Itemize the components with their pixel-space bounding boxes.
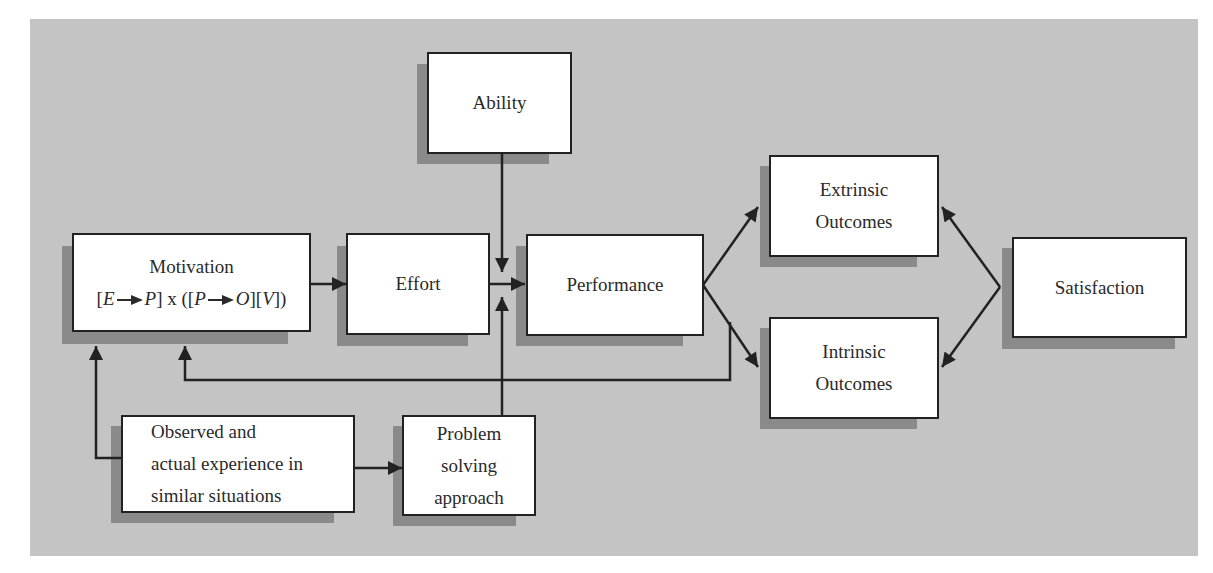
observed-line1: Observed and: [151, 416, 256, 448]
formula-expectancy: E: [103, 288, 115, 309]
arrow-right-icon: [117, 294, 143, 306]
formula-valence: V: [262, 288, 274, 309]
node-performance: Performance: [526, 234, 704, 336]
formula-performance: P: [194, 288, 206, 309]
problem-line3: approach: [434, 482, 504, 514]
node-motivation: Motivation [EP] x ([PO][V]): [72, 233, 311, 332]
arrow-satisfaction-extrinsic: [942, 207, 1000, 287]
intrinsic-line1: Intrinsic: [822, 336, 885, 368]
motivation-label: Motivation: [149, 251, 233, 283]
node-problem-solving: Problem solving approach: [402, 415, 536, 516]
problem-line1: Problem: [437, 418, 501, 450]
formula-part: ] x ([: [156, 288, 194, 309]
node-effort: Effort: [346, 233, 490, 335]
intrinsic-line2: Outcomes: [815, 368, 892, 400]
node-extrinsic-outcomes: Extrinsic Outcomes: [769, 155, 939, 257]
motivation-formula: [EP] x ([PO][V]): [97, 283, 287, 315]
formula-outcome: O: [236, 288, 250, 309]
effort-label: Effort: [395, 268, 440, 300]
arrow-satisfaction-intrinsic: [942, 287, 1000, 367]
observed-line2: actual experience in: [151, 448, 303, 480]
arrow-observed-motivation: [96, 346, 121, 458]
arrow-right-icon: [208, 294, 234, 306]
satisfaction-label: Satisfaction: [1055, 272, 1145, 304]
observed-line3: similar situations: [151, 480, 281, 512]
node-intrinsic-outcomes: Intrinsic Outcomes: [769, 317, 939, 419]
extrinsic-line2: Outcomes: [815, 206, 892, 238]
node-observed-experience: Observed and actual experience in simila…: [121, 415, 355, 513]
formula-performance: P: [145, 288, 157, 309]
node-satisfaction: Satisfaction: [1012, 237, 1187, 338]
performance-label: Performance: [566, 269, 663, 301]
formula-part: ][: [249, 288, 262, 309]
arrow-performance-extrinsic: [703, 207, 758, 285]
extrinsic-line1: Extrinsic: [820, 174, 889, 206]
ability-label: Ability: [473, 87, 527, 119]
node-ability: Ability: [427, 52, 572, 154]
problem-line2: solving: [441, 450, 497, 482]
formula-part: ]): [274, 288, 287, 309]
